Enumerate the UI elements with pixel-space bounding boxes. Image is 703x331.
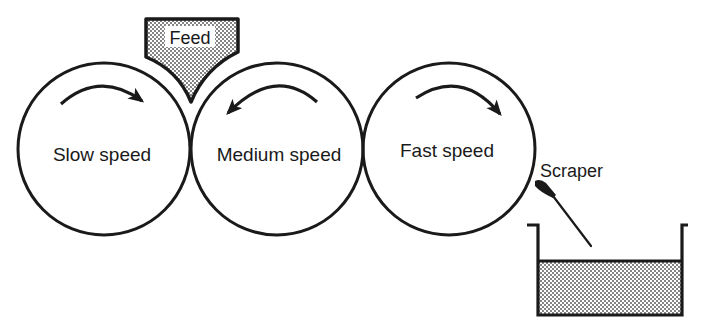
scraper-arm (550, 192, 591, 246)
three-roll-mill-diagram: Feed Slow speed Medium speed Fast speed … (0, 0, 703, 331)
roller-medium-label: Medium speed (217, 144, 342, 165)
scraper-label: Scraper (540, 161, 603, 181)
roller-fast-label: Fast speed (400, 140, 494, 161)
roller-slow-label: Slow speed (53, 144, 151, 165)
scraper: Scraper (535, 161, 603, 246)
roller-medium: Medium speed (191, 63, 363, 235)
counter-clockwise-arrow-icon (228, 86, 317, 113)
collected-product (538, 261, 682, 315)
roller-fast: Fast speed (363, 63, 535, 235)
clockwise-arrow-icon (416, 86, 500, 114)
roller-slow: Slow speed (18, 63, 190, 235)
collector-tray (527, 225, 688, 315)
feed-label: Feed (169, 28, 210, 48)
